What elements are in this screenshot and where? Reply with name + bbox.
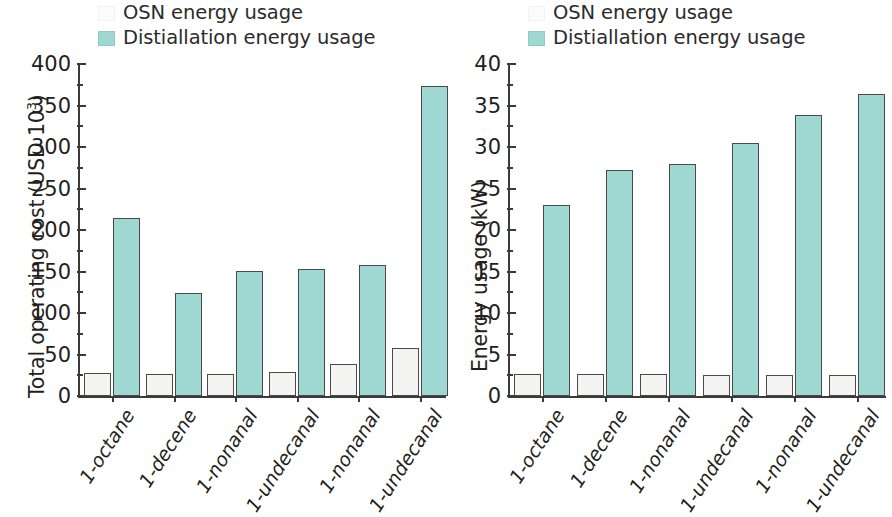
bar-distillation (732, 143, 759, 396)
chart-panel-right: OSN energy usageDistiallation energy usa… (446, 0, 892, 506)
legend-swatch-icon-dist (528, 31, 545, 46)
y-axis-tick-label: 300 (31, 137, 71, 158)
bar-osn (766, 375, 793, 396)
bar-distillation (175, 293, 202, 396)
bar-distillation (236, 271, 263, 396)
bar-osn (640, 374, 667, 396)
legend-item-label: OSN energy usage (553, 3, 733, 23)
x-axis-tick (358, 396, 360, 402)
y-axis-tick-label: 40 (474, 54, 501, 75)
bar-osn (514, 374, 541, 396)
legend-item-osn[interactable]: OSN energy usage (98, 2, 375, 24)
bar-osn (330, 364, 357, 396)
bar-group-container: 1-octane1-decene1-nonanal1-undecanal1-no… (78, 64, 446, 396)
y-axis-tick-label: 0 (488, 386, 501, 407)
x-axis-tick (297, 396, 299, 402)
y-axis-tick-label: 20 (474, 220, 501, 241)
x-axis-tick (542, 396, 544, 402)
legend-item-osn[interactable]: OSN energy usage (528, 2, 805, 24)
bar-distillation (795, 115, 822, 396)
y-axis-tick-label: 50 (44, 344, 71, 365)
bar-distillation (359, 265, 386, 396)
y-axis-tick-label: 35 (474, 95, 501, 116)
bar-distillation (298, 269, 325, 396)
x-axis-line (508, 396, 886, 398)
x-axis-tick (605, 396, 607, 402)
legend-swatch-icon-dist (98, 31, 115, 46)
x-axis-tick (857, 396, 859, 402)
y-axis-tick-label: 15 (474, 261, 501, 282)
x-axis-tick (112, 396, 114, 402)
bar-osn (577, 374, 604, 396)
x-axis-tick (794, 396, 796, 402)
bar-osn (829, 375, 856, 396)
plot-area: 0501001502002503003504001-octane1-decene… (78, 64, 446, 396)
chart-legend: OSN energy usageDistiallation energy usa… (98, 2, 375, 49)
bar-distillation (421, 86, 448, 396)
bar-osn (146, 374, 173, 396)
legend-item-label: Distiallation energy usage (123, 28, 375, 48)
y-axis-tick-label: 350 (31, 95, 71, 116)
legend-item-distillation[interactable]: Distiallation energy usage (98, 27, 375, 49)
bar-distillation (858, 94, 885, 396)
legend-swatch-icon-osn (98, 6, 115, 21)
y-axis-tick-label: 0 (58, 386, 71, 407)
plot-area: 05101520253035401-octane1-decene1-nonana… (508, 64, 886, 396)
y-axis-tick-label: 150 (31, 261, 71, 282)
x-axis-tick (420, 396, 422, 402)
legend-swatch-icon-osn (528, 6, 545, 21)
bar-distillation (606, 170, 633, 396)
bar-distillation (669, 164, 696, 396)
y-axis-tick-label: 30 (474, 137, 501, 158)
y-axis-tick-label: 200 (31, 220, 71, 241)
y-axis-tick-label: 100 (31, 303, 71, 324)
y-axis-tick-label: 10 (474, 303, 501, 324)
bar-osn (207, 374, 234, 396)
chart-panel-left: OSN energy usageDistiallation energy usa… (0, 0, 446, 506)
bar-distillation (113, 218, 140, 396)
legend-item-distillation[interactable]: Distiallation energy usage (528, 27, 805, 49)
legend-item-label: Distiallation energy usage (553, 28, 805, 48)
x-axis-tick (235, 396, 237, 402)
y-axis-tick-label: 25 (474, 178, 501, 199)
x-axis-line (78, 396, 446, 398)
bar-osn (84, 373, 111, 396)
x-axis-tick (668, 396, 670, 402)
bar-osn (703, 375, 730, 396)
legend-item-label: OSN energy usage (123, 3, 303, 23)
bar-osn (269, 372, 296, 396)
y-axis-tick-label: 400 (31, 54, 71, 75)
bar-osn (392, 348, 419, 396)
bar-group-container: 1-octane1-decene1-nonanal1-undecanal1-no… (508, 64, 886, 396)
y-axis-tick-label: 5 (488, 344, 501, 365)
bar-distillation (543, 205, 570, 396)
x-axis-tick (731, 396, 733, 402)
chart-legend: OSN energy usageDistiallation energy usa… (528, 2, 805, 49)
x-axis-tick (174, 396, 176, 402)
y-axis-tick-label: 250 (31, 178, 71, 199)
